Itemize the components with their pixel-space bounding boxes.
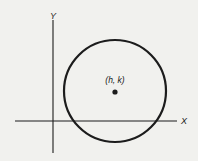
y-axis-label: Y [50,11,57,21]
circle-diagram: (h, k) Y X [0,0,198,161]
center-label: (h, k) [105,75,125,85]
center-point [112,89,117,94]
x-axis-label: X [180,116,188,126]
